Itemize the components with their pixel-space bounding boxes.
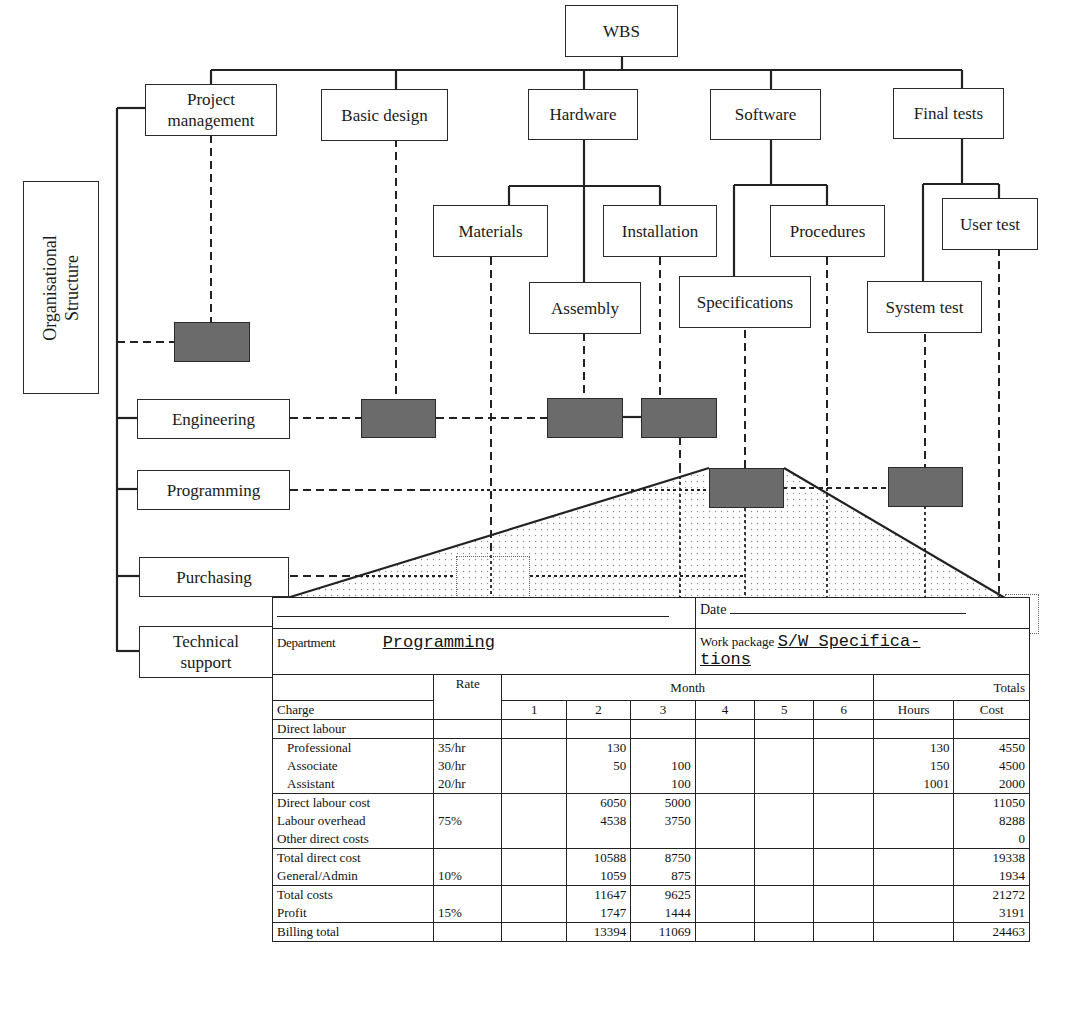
org-structure-title-box: Organisational Structure xyxy=(23,181,99,394)
wbs-node-specifications: Specifications xyxy=(679,276,811,328)
row-month-3: 100 xyxy=(631,775,695,794)
dept-programming: Programming xyxy=(137,470,290,510)
row-month-1 xyxy=(502,904,566,923)
row-month-2: 1059 xyxy=(566,867,630,886)
header-month-1: 1 xyxy=(502,701,566,720)
dept-label: Programming xyxy=(167,480,261,501)
wbs-node-label: User test xyxy=(960,214,1020,235)
wbs-node-user-test: User test xyxy=(942,198,1038,250)
work-package-value-line1[interactable]: S/W Specifica- xyxy=(778,632,921,651)
row-month-5 xyxy=(755,904,814,923)
wbs-node-software: Software xyxy=(710,89,821,140)
row-label: Other direct costs xyxy=(273,830,434,849)
table-row: Labour overhead75%453837508288 xyxy=(273,812,1030,830)
row-month-4 xyxy=(695,794,754,813)
table-row: General/Admin10%10598751934 xyxy=(273,867,1030,886)
row-month-4 xyxy=(695,720,754,739)
row-rate xyxy=(434,849,502,868)
row-month-1 xyxy=(502,775,566,794)
table-row: Associate30/hr501001504500 xyxy=(273,757,1030,775)
row-rate xyxy=(434,830,502,849)
wbs-node-label: Procedures xyxy=(790,221,866,242)
row-month-5 xyxy=(755,923,814,942)
table-row: Total direct cost10588875019338 xyxy=(273,849,1030,868)
header-month-4: 4 xyxy=(695,701,754,720)
work-package-cell: Work package S/W Specifica- tions xyxy=(696,629,1029,674)
row-month-1 xyxy=(502,812,566,830)
row-month-3: 9625 xyxy=(631,886,695,905)
row-month-1 xyxy=(502,720,566,739)
row-month-1 xyxy=(502,886,566,905)
row-month-6 xyxy=(814,904,873,923)
row-month-3: 875 xyxy=(631,867,695,886)
cost-table: Rate Month Totals Charge 1 2 3 4 5 6 Hou… xyxy=(272,674,1030,942)
row-month-5 xyxy=(755,775,814,794)
row-month-3 xyxy=(631,739,695,758)
row-month-1 xyxy=(502,830,566,849)
row-month-1 xyxy=(502,867,566,886)
header-month-3: 3 xyxy=(631,701,695,720)
wbs-node-label: Materials xyxy=(458,221,522,242)
form-header-row-2: Department Programming Work package S/W … xyxy=(272,628,1030,674)
row-month-3 xyxy=(631,720,695,739)
row-label: Associate xyxy=(273,757,434,775)
header-rate: Rate xyxy=(434,675,502,720)
row-month-5 xyxy=(755,739,814,758)
wbs-node-system-test: System test xyxy=(867,281,982,333)
row-month-6 xyxy=(814,867,873,886)
wbs-node-basic-design: Basic design xyxy=(321,89,448,141)
row-month-4 xyxy=(695,775,754,794)
row-month-1 xyxy=(502,739,566,758)
row-cost: 24463 xyxy=(954,923,1030,942)
work-package-value-line2[interactable]: tions xyxy=(700,650,751,669)
work-package-eng-assembly xyxy=(547,398,623,438)
row-label: Billing total xyxy=(273,923,434,942)
row-month-4 xyxy=(695,757,754,775)
wbs-node-materials: Materials xyxy=(433,205,548,257)
row-month-5 xyxy=(755,886,814,905)
row-month-1 xyxy=(502,849,566,868)
row-hours xyxy=(873,867,954,886)
header-totals: Totals xyxy=(873,675,1029,701)
work-package-purchasing-materials xyxy=(456,556,530,598)
header-hours: Hours xyxy=(873,701,954,720)
row-month-1 xyxy=(502,923,566,942)
wbs-node-label: Assembly xyxy=(551,298,619,319)
row-month-4 xyxy=(695,739,754,758)
row-month-3: 3750 xyxy=(631,812,695,830)
row-rate: 20/hr xyxy=(434,775,502,794)
row-cost: 21272 xyxy=(954,886,1030,905)
row-hours xyxy=(873,904,954,923)
row-month-2 xyxy=(566,830,630,849)
row-month-4 xyxy=(695,867,754,886)
row-hours: 1001 xyxy=(873,775,954,794)
row-month-2: 10588 xyxy=(566,849,630,868)
row-month-5 xyxy=(755,757,814,775)
row-rate xyxy=(434,720,502,739)
table-row: Other direct costs0 xyxy=(273,830,1030,849)
row-label: Direct labour cost xyxy=(273,794,434,813)
row-month-6 xyxy=(814,812,873,830)
work-package-prog-system-test xyxy=(888,467,963,507)
header-month-5: 5 xyxy=(755,701,814,720)
row-month-5 xyxy=(755,867,814,886)
wbs-root-box: WBS xyxy=(565,5,678,57)
wbs-node-label: Hardware xyxy=(549,104,616,125)
wbs-node-installation: Installation xyxy=(603,205,717,257)
department-value[interactable]: Programming xyxy=(383,633,495,652)
header-charge: Charge xyxy=(273,701,434,720)
row-rate: 30/hr xyxy=(434,757,502,775)
row-month-1 xyxy=(502,794,566,813)
row-label: Profit xyxy=(273,904,434,923)
row-month-5 xyxy=(755,794,814,813)
row-month-6 xyxy=(814,830,873,849)
date-field[interactable] xyxy=(730,613,966,614)
row-label: General/Admin xyxy=(273,867,434,886)
row-month-5 xyxy=(755,812,814,830)
row-month-4 xyxy=(695,886,754,905)
date-label: Date xyxy=(700,602,726,617)
row-rate: 75% xyxy=(434,812,502,830)
row-month-6 xyxy=(814,886,873,905)
table-row: Assistant20/hr10010012000 xyxy=(273,775,1030,794)
row-month-6 xyxy=(814,794,873,813)
